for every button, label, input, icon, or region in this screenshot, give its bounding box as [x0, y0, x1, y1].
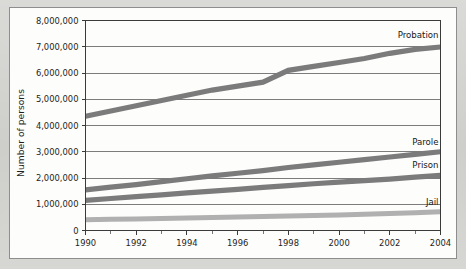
y-axis-title: Number of persons	[15, 89, 26, 177]
y-tick-label-8000000: 8,000,000	[36, 16, 79, 26]
y-tick-label-4000000: 4,000,000	[36, 121, 79, 131]
x-tick-label-1996: 1996	[227, 238, 248, 248]
x-tick-label-1992: 1992	[126, 238, 147, 248]
y-tick-labels: 01,000,0002,000,0003,000,0004,000,0005,0…	[36, 16, 79, 236]
series-line-probation	[86, 47, 441, 116]
y-tick-label-0: 0	[73, 226, 78, 236]
y-tick-label-7000000: 7,000,000	[36, 42, 79, 52]
y-tick-label-3000000: 3,000,000	[36, 147, 79, 157]
y-tick-label-2000000: 2,000,000	[36, 173, 79, 183]
x-tick-label-2002: 2002	[379, 238, 400, 248]
x-tick-labels: 19901992199419961998200020022004	[75, 238, 451, 248]
chart-panel: 01,000,0002,000,0003,000,0004,000,0005,0…	[9, 7, 457, 259]
series-label-probation: Probation	[398, 30, 439, 40]
y-tick-label-6000000: 6,000,000	[36, 68, 79, 78]
series-line-parole	[86, 152, 441, 190]
series-label-parole: Parole	[412, 137, 438, 147]
line-chart: 01,000,0002,000,0003,000,0004,000,0005,0…	[10, 8, 456, 258]
y-tick-label-5000000: 5,000,000	[36, 94, 79, 104]
x-tick-label-1994: 1994	[176, 238, 197, 248]
x-tick-label-2000: 2000	[328, 238, 349, 248]
series-line-prison	[86, 175, 441, 200]
y-axis-title-group: Number of persons	[15, 89, 26, 177]
figure-background: 01,000,0002,000,0003,000,0004,000,0005,0…	[0, 0, 466, 269]
series-label-jail: Jail	[425, 197, 439, 207]
series-label-prison: Prison	[412, 160, 438, 170]
x-tick-label-1998: 1998	[278, 238, 299, 248]
x-tick-label-1990: 1990	[75, 238, 96, 248]
y-tick-label-1000000: 1,000,000	[36, 199, 79, 209]
plot-wrapper: 01,000,0002,000,0003,000,0004,000,0005,0…	[10, 8, 456, 258]
x-tick-label-2004: 2004	[430, 238, 451, 248]
series-line-jail	[86, 212, 441, 220]
